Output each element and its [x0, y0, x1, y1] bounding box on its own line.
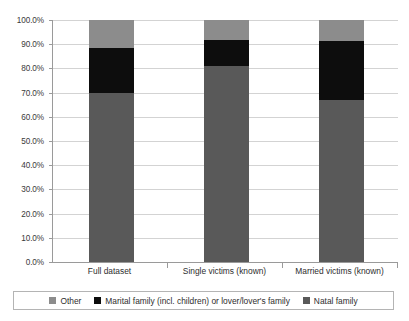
x-axis-separator [282, 263, 283, 268]
bar-group[interactable] [204, 20, 249, 262]
bar-group[interactable] [89, 20, 134, 262]
plot-wrapper: 0.0%10.0%20.0%30.0%40.0%50.0%60.0%70.0%8… [0, 0, 409, 285]
legend-label: Other [60, 296, 81, 306]
y-tick-label: 40.0% [21, 161, 44, 170]
plot-area [52, 20, 398, 263]
x-axis: Full datasetSingle victims (known)Marrie… [52, 264, 397, 284]
bar-segment[interactable] [204, 66, 249, 262]
bar-segment[interactable] [319, 100, 364, 262]
y-tick-label: 20.0% [21, 209, 44, 218]
y-tick-label: 50.0% [21, 137, 44, 146]
y-tick-label: 100.0% [17, 16, 44, 25]
y-tick-label: 90.0% [21, 40, 44, 49]
stacked-bar-chart: 0.0%10.0%20.0%30.0%40.0%50.0%60.0%70.0%8… [0, 0, 409, 321]
bar-segment[interactable] [89, 93, 134, 262]
bar-segment[interactable] [319, 41, 364, 100]
y-tickmark [49, 262, 53, 263]
y-tick-label: 0.0% [26, 258, 44, 267]
legend-label: Natal family [314, 296, 358, 306]
y-tick-label: 10.0% [21, 233, 44, 242]
bar-segment[interactable] [204, 20, 249, 40]
bar-segment[interactable] [319, 20, 364, 41]
legend-item[interactable]: Natal family [303, 296, 358, 306]
bars-layer [53, 20, 398, 262]
x-axis-separator [167, 263, 168, 268]
bar-segment[interactable] [204, 40, 249, 66]
y-tick-label: 30.0% [21, 185, 44, 194]
legend-swatch-icon [49, 297, 56, 304]
bar-group[interactable] [319, 20, 364, 262]
y-axis: 0.0%10.0%20.0%30.0%40.0%50.0%60.0%70.0%8… [0, 0, 47, 285]
y-tick-label: 60.0% [21, 112, 44, 121]
x-tick-label: Single victims (known) [183, 266, 266, 276]
x-axis-separator [397, 263, 398, 268]
legend-item[interactable]: Marital family (incl. children) or lover… [94, 296, 290, 306]
legend-label: Marital family (incl. children) or lover… [105, 296, 290, 306]
legend-swatch-icon [94, 297, 101, 304]
y-tick-label: 80.0% [21, 64, 44, 73]
x-tick-label: Full dataset [88, 266, 131, 276]
y-tick-label: 70.0% [21, 88, 44, 97]
bar-segment[interactable] [89, 48, 134, 93]
bar-segment[interactable] [89, 20, 134, 48]
chart-legend: OtherMarital family (incl. children) or … [13, 291, 394, 310]
legend-swatch-icon [303, 297, 310, 304]
x-tick-label: Married victims (known) [295, 266, 383, 276]
legend-item[interactable]: Other [49, 296, 81, 306]
